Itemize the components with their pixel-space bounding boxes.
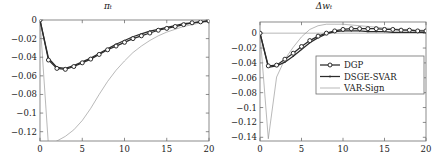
legend-label-var-sign: VAR-Sign [343, 83, 385, 93]
series-marker-dgp [106, 48, 110, 52]
x-tick-label: 0 [37, 144, 42, 154]
chart-panel-inflation: πₜ 051015200−0.02−0.04−0.06−0.08−0.1−0.1… [0, 0, 216, 166]
series-marker-dgp [333, 29, 337, 33]
plot-area-right: 051015200−0.02−0.04−0.06−0.08−0.1−0.12−0… [216, 0, 433, 166]
series-marker-dgp [156, 28, 160, 32]
series-marker-dgp [131, 37, 135, 41]
series-marker-dgp [38, 18, 42, 22]
x-tick-label: 5 [299, 144, 304, 154]
series-marker-dgp [349, 27, 353, 31]
series-marker-dgp [190, 21, 194, 25]
series-marker-dgp [324, 31, 328, 35]
y-tick-label: −0.02 [11, 34, 37, 44]
x-tick-label: 20 [421, 144, 432, 154]
series-marker-dgp [173, 25, 177, 29]
plot-area-left: 051015200−0.02−0.04−0.06−0.08−0.1−0.12 [0, 0, 216, 166]
legend: DGPDSGE-SVARVAR-Sign [316, 56, 424, 94]
series-marker-dgp [275, 63, 279, 67]
series-marker-dgp [148, 31, 152, 35]
series-marker-dgp [374, 27, 378, 31]
series-marker-dgp [341, 27, 345, 31]
x-tick-label: 0 [257, 144, 262, 154]
series-marker-dgp [182, 23, 186, 27]
series-marker-dgp [80, 61, 84, 65]
series-marker-dgp [55, 66, 59, 70]
x-tick-label: 20 [204, 144, 215, 154]
x-tick-label: 15 [161, 144, 172, 154]
series-marker-dgp [139, 34, 143, 38]
y-tick-label: −0.06 [11, 71, 37, 81]
series-marker-dgp [291, 51, 295, 55]
series-marker-dgp [89, 57, 93, 61]
series-marker-dgp [165, 26, 169, 30]
series-marker-dgp [258, 31, 262, 35]
y-tick-label: −0.14 [231, 132, 257, 142]
y-tick-label: 0 [32, 15, 37, 25]
y-tick-label: −0.1 [16, 108, 37, 118]
series-marker-dgp [383, 27, 387, 31]
series-marker-dgp [114, 44, 118, 48]
y-tick-label: −0.08 [11, 89, 37, 99]
y-tick-label: −0.1 [236, 103, 257, 113]
y-tick-label: −0.04 [11, 52, 37, 62]
chart-panel-wage-growth: Δwₜ 051015200−0.02−0.04−0.06−0.08−0.1−0.… [216, 0, 432, 166]
y-tick-label: −0.04 [231, 58, 257, 68]
axes-frame [40, 20, 209, 141]
legend-marker-dsge-svar [329, 76, 331, 78]
x-tick-label: 10 [119, 144, 130, 154]
legend-label-dsge-svar: DSGE-SVAR [344, 72, 397, 82]
series-marker-dgp [266, 64, 270, 68]
legend-label-dgp: DGP [344, 60, 364, 70]
series-marker-dgp [123, 40, 127, 44]
series-marker-dgp [358, 27, 362, 31]
legend-marker-dgp [328, 63, 332, 67]
figure-root: πₜ 051015200−0.02−0.04−0.06−0.08−0.1−0.1… [0, 0, 433, 166]
series-marker-dgp [283, 57, 287, 61]
series-marker-dgp [207, 19, 211, 23]
x-tick-label: 10 [338, 144, 349, 154]
series-marker-dgp [308, 39, 312, 43]
series-marker-dgp [399, 28, 403, 32]
y-tick-label: 0 [252, 28, 257, 38]
series-marker-dgp [366, 27, 370, 31]
series-marker-dgp [97, 52, 101, 56]
series-marker-dgp [300, 45, 304, 49]
series-marker-dgp [407, 28, 411, 32]
x-tick-label: 15 [379, 144, 390, 154]
series-marker-dgp [72, 65, 76, 69]
y-tick-label: −0.02 [231, 43, 257, 53]
series-marker-dgp [416, 29, 420, 33]
series-marker-dgp [46, 58, 50, 62]
y-tick-label: −0.12 [11, 127, 37, 137]
series-marker-dgp [316, 34, 320, 38]
series-marker-dgp [391, 27, 395, 31]
series-marker-dgp [63, 67, 67, 71]
x-tick-label: 5 [80, 144, 85, 154]
series-line-var-sign [40, 20, 209, 146]
y-tick-label: −0.08 [231, 88, 257, 98]
series-marker-dgp [199, 20, 203, 24]
y-tick-label: −0.06 [231, 73, 257, 83]
y-tick-label: −0.12 [231, 117, 257, 127]
series-marker-dgp [424, 29, 428, 33]
